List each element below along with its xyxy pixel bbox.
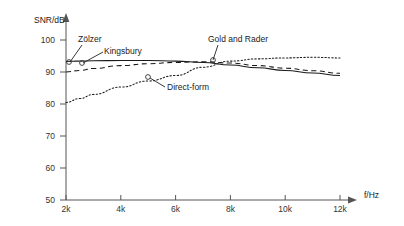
x-axis-title: f/Hz [364,190,379,200]
x-axis-ticks: 2k4k6k8k10k12k [62,195,348,214]
marker-direct-form [146,75,151,80]
y-tick-label: 90 [46,67,56,77]
data-series [66,57,340,102]
annotation-label-gold-and-rader: Gold and Rader [208,34,268,44]
chart-page: 5060708090100 2k4k6k8k10k12k ZölzerKings… [0,0,404,226]
y-axis-ticks: 5060708090100 [41,35,66,205]
x-tick-label: 10k [278,204,292,214]
annotation-label-z-lzer: Zölzer [78,34,102,44]
x-tick-label: 6k [171,204,181,214]
leader-line-kingsbury [83,52,103,63]
leader-line-gold-and-rader [213,45,218,60]
x-axis-arrowhead [348,197,357,204]
y-tick-label: 70 [46,131,56,141]
y-tick-label: 100 [41,35,55,45]
series-line-z-lzer [66,60,340,75]
snr-vs-frequency-chart: 5060708090100 2k4k6k8k10k12k ZölzerKings… [0,0,404,226]
series-line-gold-and-rader [66,57,340,102]
y-tick-label: 80 [46,99,56,109]
annotation-label-direct-form: Direct-form [167,82,209,92]
y-axis-title: SNR/dB [34,15,65,25]
y-tick-label: 60 [46,163,56,173]
x-tick-label: 2k [62,204,72,214]
y-tick-label: 50 [46,195,56,205]
x-tick-label: 12k [333,204,347,214]
x-tick-label: 4k [116,204,126,214]
annotation-label-kingsbury: Kingsbury [104,46,143,56]
leader-line-z-lzer [70,45,82,62]
x-tick-label: 8k [226,204,236,214]
